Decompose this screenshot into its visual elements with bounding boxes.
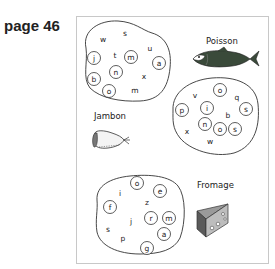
svg-text:s: s [244, 105, 248, 114]
svg-text:p: p [180, 106, 185, 115]
svg-text:n: n [203, 120, 208, 129]
label-fromage: Fromage [197, 180, 234, 190]
svg-text:g: g [145, 244, 150, 253]
circled-letter: s [240, 103, 253, 116]
svg-text:e: e [158, 187, 163, 196]
svg-text:a: a [157, 59, 162, 68]
svg-text:f: f [109, 203, 112, 212]
circled-letter: o [131, 177, 144, 190]
circled-letter: m [163, 212, 176, 225]
circled-letter: o [214, 84, 227, 97]
free-letter: m [131, 86, 138, 95]
svg-text:i: i [206, 104, 208, 113]
svg-text:m: m [127, 53, 134, 62]
free-letter: q [235, 93, 240, 102]
svg-text:o: o [135, 179, 140, 188]
free-letter: w [100, 35, 106, 44]
free-letter: s [123, 29, 127, 38]
circled-letter: b [88, 73, 101, 86]
label-poisson: Poisson [206, 36, 238, 46]
circled-letter: r [145, 212, 158, 225]
circled-letter: m [125, 51, 138, 64]
svg-text:j: j [92, 54, 95, 63]
circled-letter: a [158, 228, 171, 241]
circled-letter: i [201, 102, 214, 115]
free-letter: v [193, 91, 198, 100]
svg-text:m: m [165, 214, 172, 223]
circled-letter: o [214, 123, 227, 136]
free-letter: x [185, 127, 190, 136]
free-letter: t [114, 51, 117, 60]
circled-letter: f [104, 201, 117, 214]
cheese-icon [197, 204, 228, 237]
circled-letter: j [88, 52, 101, 65]
free-letter: b [226, 111, 231, 120]
free-letter: w [207, 137, 213, 146]
svg-text:a: a [162, 230, 167, 239]
circled-letter: n [110, 66, 123, 79]
circled-letter: g [141, 242, 154, 255]
free-letter: u [148, 44, 153, 53]
svg-text:o: o [218, 125, 223, 134]
svg-text:o: o [107, 87, 112, 96]
free-letter: x [142, 72, 147, 81]
svg-text:o: o [218, 86, 223, 95]
circled-letter: a [153, 57, 166, 70]
svg-text:n: n [114, 68, 119, 77]
svg-text:s: s [233, 125, 237, 134]
circled-letter: p [176, 104, 189, 117]
circled-letter: o [103, 85, 116, 98]
ham-icon [93, 131, 130, 149]
free-letter: j [129, 217, 132, 226]
svg-text:b: b [92, 75, 97, 84]
circled-letter: s [229, 123, 242, 136]
free-letter: z [145, 198, 149, 207]
circled-letter: n [199, 118, 212, 131]
label-jambon: Jambon [93, 111, 126, 121]
free-letter: p [121, 234, 126, 243]
free-letter: s [106, 225, 110, 234]
circled-letter: e [154, 185, 167, 198]
worksheet-illustration: jmanbowstuxmopisnosvqbxwoefrmagizjsp Poi… [0, 0, 275, 269]
free-letter: i [119, 189, 121, 198]
fish-icon [193, 47, 259, 67]
